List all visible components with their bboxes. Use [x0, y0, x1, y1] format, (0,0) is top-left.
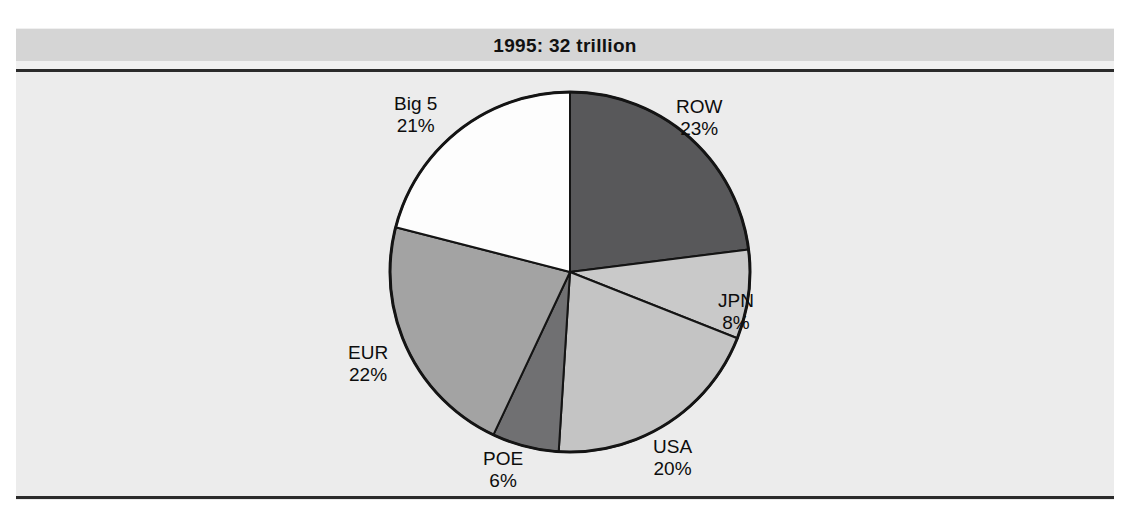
pie-label-row: ROW 23%	[676, 96, 722, 140]
pie-label-big5: Big 5 21%	[394, 93, 437, 137]
pie-chart: ROW 23% JPN 8% USA 20% POE 6% EUR 22% Bi…	[0, 0, 1130, 527]
pie-label-poe-percent: 6%	[483, 470, 523, 492]
pie-label-eur-percent: 22%	[348, 364, 388, 386]
figure-page: 1995: 32 trillion ROW 23% JPN 8% USA 20%…	[0, 0, 1130, 527]
pie-label-big5-name: Big 5	[394, 93, 437, 114]
pie-label-usa: USA 20%	[653, 436, 692, 480]
pie-slice-group	[390, 92, 750, 452]
pie-label-row-name: ROW	[676, 96, 722, 117]
pie-label-eur-name: EUR	[348, 342, 388, 363]
pie-label-poe-name: POE	[483, 448, 523, 469]
pie-label-usa-name: USA	[653, 436, 692, 457]
pie-label-eur: EUR 22%	[348, 342, 388, 386]
pie-label-jpn: JPN 8%	[718, 290, 754, 334]
divider-bottom	[16, 496, 1114, 499]
pie-label-jpn-percent: 8%	[718, 312, 754, 334]
pie-label-poe: POE 6%	[483, 448, 523, 492]
pie-label-row-percent: 23%	[676, 118, 722, 140]
pie-label-jpn-name: JPN	[718, 290, 754, 311]
pie-label-usa-percent: 20%	[653, 458, 692, 480]
pie-label-big5-percent: 21%	[394, 115, 437, 137]
